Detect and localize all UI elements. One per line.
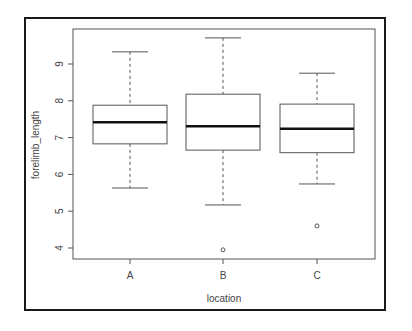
outlier-point [315,224,319,228]
x-axis-label: location [207,293,241,304]
x-tick-label: B [220,270,227,281]
y-tick-label: 9 [54,61,65,67]
y-tick-label: 4 [54,245,65,251]
y-tick-label: 5 [54,208,65,214]
plot-area: 456789ABC [54,29,375,281]
boxplot-chart: 456789ABC location forelimb_length [0,0,412,331]
box-B [186,94,260,150]
x-tick-label: A [127,270,134,281]
box-A [93,105,167,144]
y-tick-label: 6 [54,171,65,177]
outlier-point [221,248,225,252]
y-tick-label: 8 [54,98,65,104]
y-axis-label: forelimb_length [30,111,41,179]
x-tick-label: C [313,270,320,281]
y-tick-label: 7 [54,134,65,140]
